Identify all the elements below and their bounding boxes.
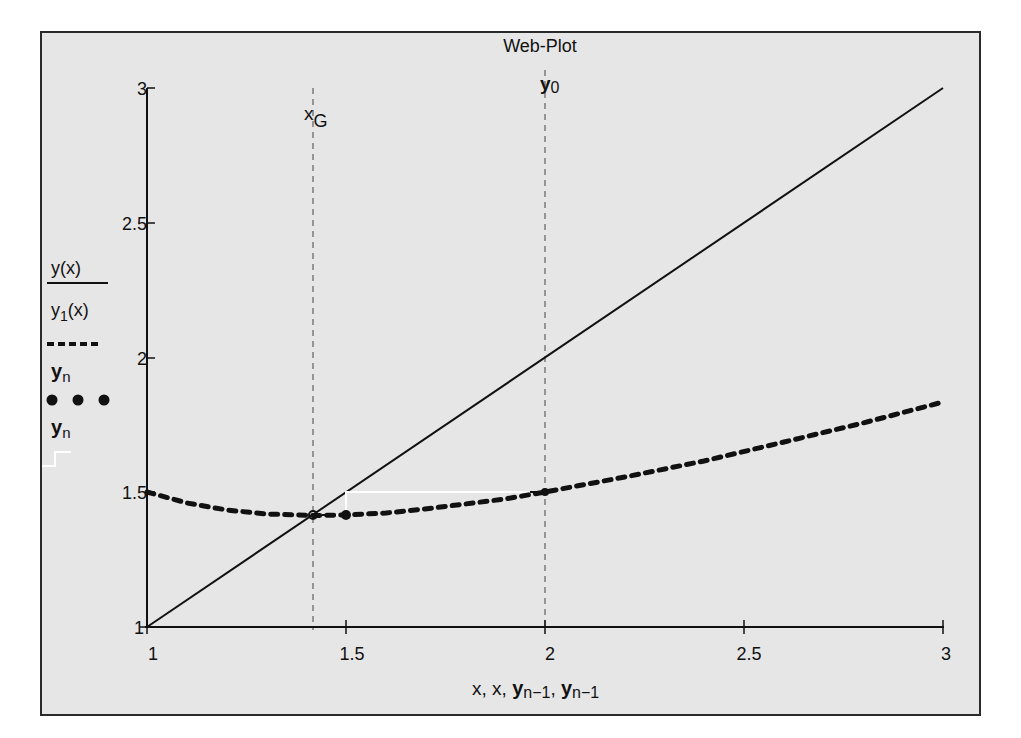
svg-text:1.5: 1.5 bbox=[339, 644, 364, 664]
svg-text:3: 3 bbox=[137, 79, 147, 99]
plot-canvas: Web-Plot xG y0 3 2.5 2 1.5 1 1 1.5 2 2.5… bbox=[0, 0, 1021, 738]
legend-label-y1: y1(x) bbox=[51, 300, 89, 324]
svg-text:2.5: 2.5 bbox=[736, 644, 761, 664]
legend-label-y: y(x) bbox=[51, 258, 81, 278]
chart-title: Web-Plot bbox=[503, 36, 577, 56]
svg-text:1: 1 bbox=[148, 644, 158, 664]
y-tick-labels: 3 2.5 2 1.5 1 bbox=[122, 79, 147, 638]
svg-text:3: 3 bbox=[941, 644, 951, 664]
svg-text:1.5: 1.5 bbox=[122, 483, 147, 503]
xg-label: xG bbox=[304, 103, 328, 131]
legend-step-swatch bbox=[42, 452, 71, 466]
svg-text:2: 2 bbox=[545, 644, 555, 664]
x-axis-label: x, x, yn−1, yn−1 bbox=[472, 677, 599, 701]
legend-label-yn-markers: yn bbox=[51, 360, 70, 385]
svg-text:2: 2 bbox=[137, 349, 147, 369]
legend-markers-swatch bbox=[47, 395, 110, 406]
x-tick-labels: 1 1.5 2 2.5 3 bbox=[148, 644, 951, 664]
svg-text:1: 1 bbox=[134, 618, 144, 638]
y0-label: y0 bbox=[540, 73, 560, 96]
legend-label-yn-step: yn bbox=[51, 416, 70, 441]
svg-text:2.5: 2.5 bbox=[122, 214, 147, 234]
